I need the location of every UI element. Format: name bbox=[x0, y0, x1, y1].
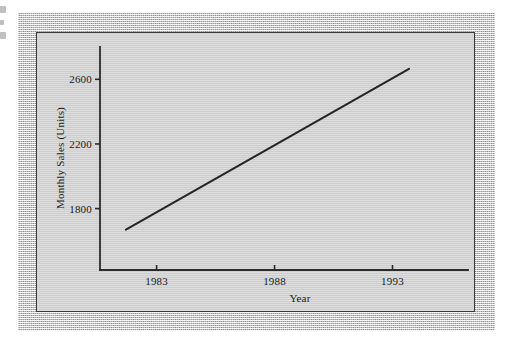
x-axis-tick-label: 1988 bbox=[263, 275, 286, 287]
x-axis-tick-label: 1993 bbox=[381, 275, 404, 287]
plot-canvas bbox=[0, 0, 509, 344]
y-axis-title: Monthly Sales (Units) bbox=[54, 107, 66, 209]
figure-root: 180022002600 198319881993 Monthly Sales … bbox=[0, 0, 509, 344]
data-series-group bbox=[126, 69, 409, 230]
axis-spines bbox=[100, 47, 468, 270]
y-axis-tick-label: 2600 bbox=[58, 73, 92, 85]
data-series-line bbox=[126, 69, 409, 230]
x-axis-tick-label: 1983 bbox=[145, 275, 168, 287]
x-axis-title: Year bbox=[289, 292, 310, 304]
